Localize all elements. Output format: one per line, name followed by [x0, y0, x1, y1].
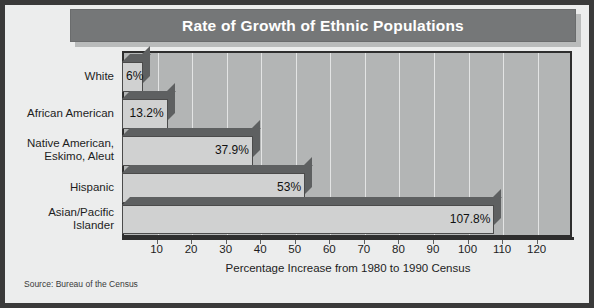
x-axis-tick-label: 80	[392, 243, 405, 255]
chart-image: Rate of Growth of Ethnic Populations Whi…	[0, 0, 594, 308]
x-axis-title: Percentage Increase from 1980 to 1990 Ce…	[122, 262, 574, 274]
bar-top-face	[122, 128, 261, 136]
source-note: Source: Bureau of the Census	[24, 279, 138, 289]
bar-value-label: 37.9%	[126, 143, 249, 157]
chart-title: Rate of Growth of Ethnic Populations	[182, 17, 464, 35]
bar-value-label: 107.8%	[126, 212, 490, 226]
x-axis-tick-label: 90	[427, 243, 440, 255]
x-axis-tick-label: 100	[458, 243, 477, 255]
x-axis-tick-label: 30	[219, 243, 232, 255]
title-banner: Rate of Growth of Ethnic Populations	[70, 9, 576, 42]
category-label-line: Eskimo, Aleut	[27, 150, 114, 163]
bar-value-label: 53%	[126, 180, 301, 194]
x-axis-tick-label: 70	[357, 243, 370, 255]
bar-side-face	[493, 189, 501, 226]
category-label-line: Native American,	[27, 137, 114, 150]
x-axis-tick-label: 120	[527, 243, 546, 255]
bar-side-face	[304, 157, 312, 195]
category-label: African American	[27, 107, 114, 120]
bar-side-face	[167, 83, 175, 121]
category-label: White	[85, 70, 114, 83]
category-label: Hispanic	[70, 181, 114, 194]
category-label: Native American,Eskimo, Aleut	[27, 137, 114, 163]
x-axis-line	[122, 237, 574, 240]
bar-top-face	[122, 165, 313, 173]
bar-value-label: 13.2%	[126, 106, 164, 120]
x-axis-tick-label: 50	[288, 243, 301, 255]
category-label-line: Islander	[48, 219, 114, 232]
category-label-line: White	[85, 70, 114, 83]
gridline	[538, 53, 539, 235]
category-label-line: Hispanic	[70, 181, 114, 194]
category-label-line: Asian/Pacific	[48, 206, 114, 219]
bar-value-label: 6%	[126, 69, 139, 83]
x-axis-tick-label: 10	[150, 243, 163, 255]
x-axis-tick-label: 110	[493, 243, 511, 255]
x-axis-tick-label: 40	[254, 243, 267, 255]
x-axis-tick-label: 60	[323, 243, 336, 255]
bar-top-face	[122, 197, 502, 205]
bar-side-face	[252, 120, 260, 158]
x-axis-tick-label: 20	[185, 243, 198, 255]
category-label-line: African American	[27, 107, 114, 120]
category-label: Asian/PacificIslander	[48, 206, 114, 232]
